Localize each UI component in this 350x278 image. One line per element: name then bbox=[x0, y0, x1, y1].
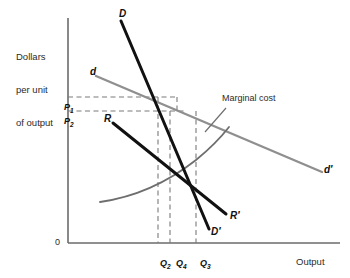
origin-label: 0 bbox=[55, 237, 60, 248]
quantity-tick-q3: Q3 bbox=[190, 247, 211, 278]
y-axis-title: Dollars per unit of output bbox=[16, 29, 53, 150]
dashed-reference-lines bbox=[68, 97, 196, 243]
curve-label-D: D bbox=[119, 8, 126, 19]
price-tick-p2: P2 bbox=[54, 105, 74, 141]
y-axis-title-line1: Dollars bbox=[16, 51, 53, 62]
price-tick-p2-sub: 2 bbox=[70, 121, 74, 128]
x-axis-title: Output bbox=[296, 256, 325, 267]
quantity-tick-q4-sub: 4 bbox=[183, 263, 187, 270]
quantity-tick-q3-letter: Q bbox=[200, 258, 207, 268]
curve-label-R: R bbox=[104, 113, 111, 124]
curve-label-d: d bbox=[90, 66, 96, 77]
quantity-tick-q3-sub: 3 bbox=[207, 263, 211, 270]
y-axis-title-line2: per unit bbox=[16, 84, 53, 95]
curve-D-market-demand bbox=[121, 21, 209, 229]
marginal-cost-leader-line bbox=[205, 108, 226, 132]
y-axis-title-line3: of output bbox=[16, 117, 53, 128]
axes-group bbox=[68, 18, 340, 243]
curve-d-perceived-demand bbox=[96, 76, 322, 172]
curve-label-D-prime: D′ bbox=[211, 226, 221, 237]
curve-label-marginal-cost: Marginal cost bbox=[222, 93, 276, 104]
quantity-tick-q4-letter: Q bbox=[176, 258, 183, 268]
quantity-tick-q4: Q4 bbox=[166, 247, 187, 278]
curve-label-d-prime: d′ bbox=[324, 164, 333, 175]
economics-figure: Dollars per unit of output 0 Output P1 P… bbox=[0, 0, 350, 278]
curve-label-R-prime: R′ bbox=[230, 210, 240, 221]
